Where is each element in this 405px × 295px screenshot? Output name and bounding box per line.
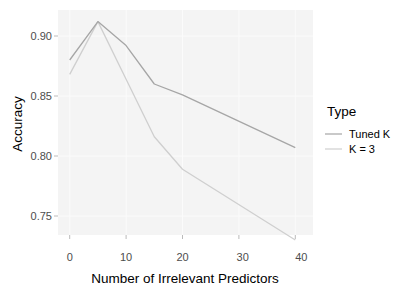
legend-label-k3: K = 3: [349, 143, 375, 155]
y-axis: 0.90 0.85 0.80 0.75: [31, 30, 58, 222]
legend: Type Tuned K K = 3: [325, 104, 391, 155]
y-tick-label: 0.85: [31, 90, 52, 102]
x-tick-label: 20: [176, 251, 188, 263]
x-axis-title: Number of Irrelevant Predictors: [91, 271, 279, 286]
x-tick-label: 40: [295, 251, 307, 263]
legend-label-tuned-k: Tuned K: [349, 128, 391, 140]
plot-panel: [58, 10, 313, 235]
y-axis-title: Accuracy: [10, 96, 25, 152]
y-tick-label: 0.80: [31, 150, 52, 162]
x-tick-label: 0: [67, 251, 73, 263]
line-chart: 0.90 0.85 0.80 0.75 0 10 20 30 40 Number…: [0, 0, 405, 295]
y-tick-label: 0.75: [31, 210, 52, 222]
x-tick-label: 30: [237, 251, 249, 263]
x-axis: 0 10 20 30 40: [67, 235, 308, 263]
legend-title: Type: [327, 104, 356, 119]
x-tick-label: 10: [120, 251, 132, 263]
y-tick-label: 0.90: [31, 30, 52, 42]
